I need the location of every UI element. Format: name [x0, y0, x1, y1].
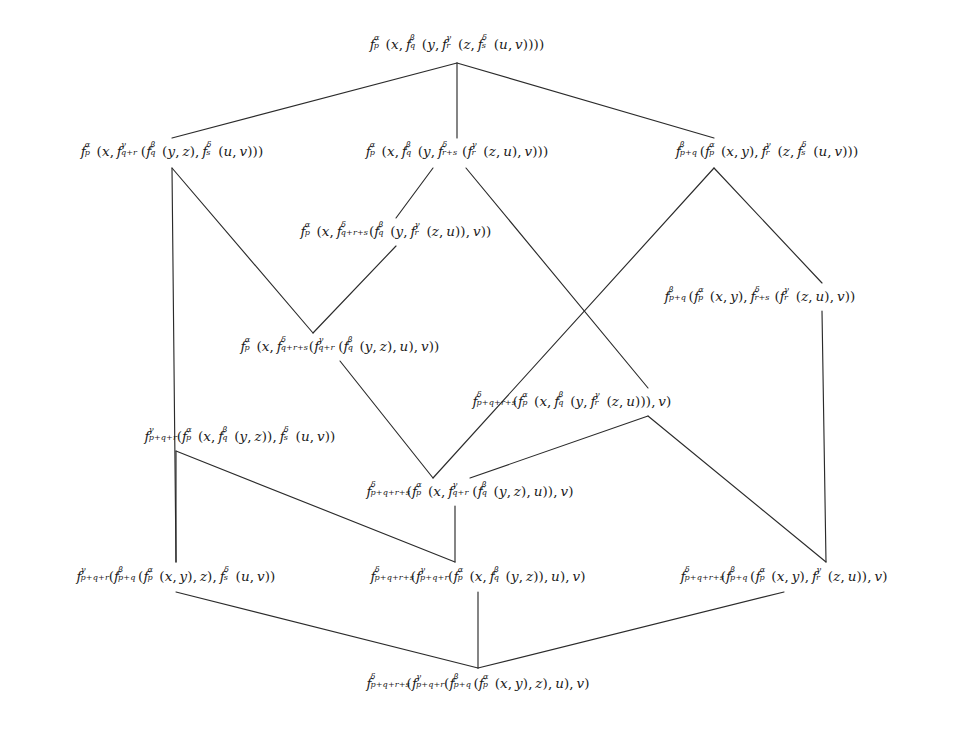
node-r3a: fpα(x, fq+r+sδ(fq+rγ(fqβ(y, z), u), v)) — [241, 340, 440, 354]
node-r1b: fpα(x, fqβ(y, fr+sδ(frγ(z, u), v))) — [366, 145, 549, 159]
edge-r1a-to-r3a — [172, 168, 313, 333]
node-r2b: fp+qβ(fpα(x, y), fr+sδ(frγ(z, u), v)) — [665, 290, 856, 304]
edge-r2a-to-r3a — [313, 246, 396, 333]
edge-r3a-to-r4b — [340, 361, 433, 478]
node-top: fpα(x, fqβ(y, frγ(z, fsδ(u, v)))) — [370, 38, 545, 52]
edge-r3b-to-r4b — [470, 416, 648, 478]
edge-top-to-r1c — [457, 63, 714, 138]
edge-b1-to-bottom — [176, 592, 478, 668]
edge-b3-to-bottom — [478, 592, 784, 668]
edge-r1c-to-r4b — [433, 168, 714, 478]
edge-r2b-to-b3 — [822, 311, 826, 562]
lattice-diagram: fpα(x, fqβ(y, frγ(z, fsδ(u, v))))fpα(x, … — [0, 0, 965, 731]
node-r4b: fp+q+r+sδ(fpα(x, fq+rγ(fqβ(y, z), u)), v… — [366, 485, 573, 499]
node-r1a: fpα(x, fq+rγ(fqβ(y, z), fsδ(u, v))) — [81, 145, 264, 159]
edge-r1c-to-r2b — [714, 168, 822, 283]
node-r4a: fp+q+rγ(fpα(x, fqβ(y, z)), fsδ(u, v)) — [145, 430, 336, 444]
edge-r1b-to-r3b — [466, 168, 648, 388]
edge-layer — [0, 0, 965, 731]
node-r1c: fp+qβ(fpα(x, y), frγ(z, fsδ(u, v))) — [676, 145, 859, 159]
node-b1: fp+q+rγ(fp+qβ(fpα(x, y), z), fsδ(u, v)) — [77, 570, 276, 584]
edge-r1b-to-r2a — [396, 168, 433, 218]
edge-r3b-to-b3 — [648, 416, 826, 562]
edge-top-to-r1a — [172, 63, 457, 138]
node-bottom: fp+q+r+sδ(fp+q+rγ(fp+qβ(fpα(x, y), z), u… — [366, 677, 589, 691]
node-b2: fp+q+r+sδ(fp+q+rγ(fpα(x, fqβ(y, z)), u),… — [370, 570, 585, 584]
edge-r1a-to-b1 — [172, 168, 176, 562]
edge-r4a-to-b2 — [176, 451, 455, 562]
node-r2a: fpα(x, fq+r+sδ(fqβ(y, frγ(z, u)), v)) — [301, 225, 492, 239]
node-b3: fp+q+r+sδ(fp+qβ(fpα(x, y), frγ(z, u)), v… — [680, 570, 887, 584]
node-r3b: fp+q+r+sδ(fpα(x, fqβ(y, frγ(z, u))), v) — [473, 395, 672, 409]
